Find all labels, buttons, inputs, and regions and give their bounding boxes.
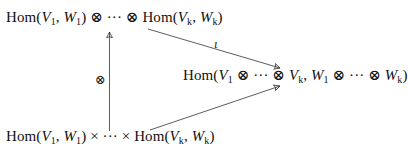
subscript: k — [397, 74, 402, 85]
edge-label-tensor: ⊗ — [95, 73, 106, 87]
arrow-composite-map — [150, 86, 280, 130]
edge-label-iota: ι — [214, 37, 218, 51]
